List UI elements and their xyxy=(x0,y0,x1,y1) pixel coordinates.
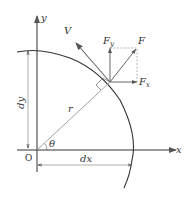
theta-arc xyxy=(45,144,48,151)
force-x-label: Fx xyxy=(138,76,150,89)
origin-label: O xyxy=(25,152,32,163)
force-y-label: Fy xyxy=(102,35,115,48)
curved-path-arc xyxy=(17,50,134,188)
x-axis-label: x xyxy=(176,144,182,155)
dy-label: dy xyxy=(15,97,26,109)
force-y-subscript: y xyxy=(109,40,115,48)
velocity-vector xyxy=(76,43,110,82)
radius-line xyxy=(37,82,110,150)
y-axis-label: y xyxy=(40,12,47,23)
force-vector xyxy=(110,49,136,82)
velocity-label: V xyxy=(64,25,73,36)
force-diagram: y x O θ r dx dy V F Fy Fx xyxy=(0,0,187,197)
radius-label: r xyxy=(68,103,74,114)
theta-label: θ xyxy=(49,138,55,149)
force-x-subscript: x xyxy=(146,81,150,89)
dx-label: dx xyxy=(80,153,92,164)
force-label: F xyxy=(137,35,146,46)
